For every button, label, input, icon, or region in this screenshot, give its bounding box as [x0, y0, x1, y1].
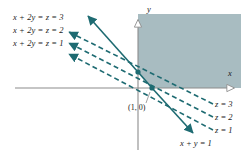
objective-label-z2: x + 2y = z = 2 [13, 26, 64, 35]
feasible-region [138, 14, 241, 88]
objective-label-z3: x + 2y = z = 3 [13, 13, 64, 22]
optimal-vertex-dot [135, 69, 140, 74]
unit-point-dot [149, 85, 154, 90]
point-label: (1, 0) [128, 104, 145, 112]
constraint-line-arrow [152, 88, 193, 133]
x-axis-label: x [228, 69, 232, 78]
improve-direction-arrow [88, 16, 138, 72]
level-value-label-z3: z = 3 [215, 100, 233, 109]
y-axis-label: y [147, 5, 151, 14]
point-leader-line [146, 92, 150, 103]
plot-canvas [0, 0, 249, 156]
objective-label-z1: x + 2y = z = 1 [13, 39, 64, 48]
level-curve-figure: x + 2y = z = 3 x + 2y = z = 2 x + 2y = z… [0, 0, 249, 156]
level-value-label-z1: z = 1 [215, 126, 233, 135]
level-value-label-z2: z = 2 [215, 113, 233, 122]
constraint-label: x + y = 1 [180, 139, 212, 148]
